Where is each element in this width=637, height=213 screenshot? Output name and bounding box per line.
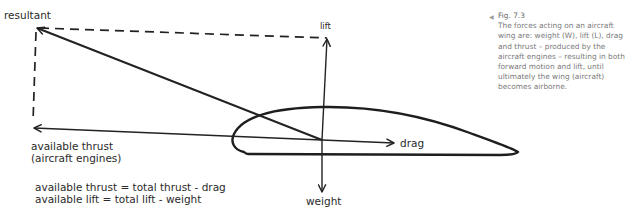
formula-lift: available lift = total lift - weight xyxy=(35,194,226,206)
thrust-arrow xyxy=(34,128,322,140)
label-available-thrust: available thrust (aircraft engines) xyxy=(31,140,121,164)
dashed-line-top xyxy=(40,28,327,38)
dashed-line-left xyxy=(33,32,36,122)
lift-arrow xyxy=(322,39,327,140)
formulas: available thrust = total thrust - drag a… xyxy=(35,182,226,205)
label-available-thrust-line2: (aircraft engines) xyxy=(31,152,121,164)
figure-caption: ◀ Fig. 7.3 The forces acting on an aircr… xyxy=(498,11,633,93)
resultant-arrow xyxy=(37,28,322,140)
label-lift: lift xyxy=(320,20,331,32)
label-weight: weight xyxy=(306,195,341,207)
label-drag: drag xyxy=(400,137,424,149)
formula-thrust: available thrust = total thrust - drag xyxy=(35,182,226,194)
label-resultant: resultant xyxy=(4,9,51,21)
caption-text: The forces acting on an aircraft wing ar… xyxy=(498,21,625,91)
triangle-left-icon: ◀ xyxy=(489,12,494,22)
label-available-thrust-line1: available thrust xyxy=(31,140,121,152)
figure-number: Fig. 7.3 xyxy=(498,11,633,21)
airfoil-shape xyxy=(232,107,518,155)
drag-arrow xyxy=(322,140,394,143)
